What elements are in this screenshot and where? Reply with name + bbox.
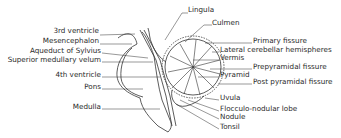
label-pyramid: Pyramid <box>220 71 250 79</box>
label-lingula: Lingula <box>188 6 214 14</box>
label-post-pyramidal-fissure: Post pyramidal fissure <box>253 78 333 86</box>
label-tonsil: Tonsil <box>220 123 240 131</box>
label-3rd-ventricle: 3rd ventricle <box>53 27 99 35</box>
label-medulla: Medulla <box>73 103 101 111</box>
label-uvula: Uvula <box>220 94 240 102</box>
brainstem-outline <box>117 32 171 132</box>
label-4th-ventricle: 4th ventricle <box>55 71 101 79</box>
label-prepyramidal-fissure: Prepyramidal fissure <box>253 63 327 71</box>
label-mesencephalon: Mesencephalon <box>43 37 99 45</box>
label-pons: Pons <box>84 83 101 91</box>
label-nodule: Nodule <box>220 113 245 121</box>
label-culmen: Culmen <box>212 19 240 27</box>
label-primary-fissure: Primary fissure <box>253 37 307 45</box>
label-aqueduct-of-sylvius: Aqueduct of Sylvius <box>30 47 101 55</box>
label-superior-medullary-velum: Superior medullary velum <box>8 56 101 64</box>
label-vermis: Vermis <box>220 54 244 62</box>
